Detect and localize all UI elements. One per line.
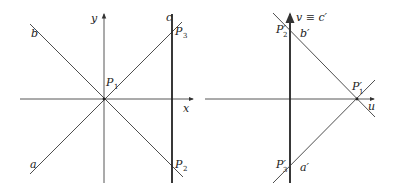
- svg-text:3: 3: [283, 166, 287, 174]
- x-axis-label: x: [183, 102, 190, 115]
- line-b: [30, 24, 183, 177]
- line-a-label: a: [30, 158, 37, 171]
- line-a-prime-label: a′: [300, 161, 310, 174]
- svg-text:2: 2: [183, 165, 187, 173]
- point-p3-label: P 3: [174, 25, 187, 40]
- point-p2-prime-label: P′ 2: [275, 23, 287, 39]
- svg-text:P: P: [174, 25, 183, 38]
- point-p1-dot: [103, 98, 106, 101]
- line-b-label: b: [31, 27, 38, 40]
- svg-text:1: 1: [359, 88, 363, 96]
- point-p1-label: P 1: [105, 76, 118, 91]
- line-a: [30, 22, 182, 174]
- svg-text:2: 2: [283, 31, 287, 39]
- svg-text:P: P: [105, 76, 114, 89]
- line-b-prime-label: b′: [300, 27, 310, 40]
- svg-text:3: 3: [183, 32, 187, 40]
- u-axis-label: u: [368, 100, 375, 113]
- svg-text:P: P: [174, 158, 183, 171]
- point-p2-label: P 2: [174, 158, 187, 173]
- left-diagram: x y b a c P 1 P 3 P 2: [20, 11, 193, 183]
- line-b-prime: [273, 13, 375, 117]
- y-axis-label: y: [90, 12, 98, 25]
- line-c-label: c: [166, 11, 172, 24]
- right-diagram: u v ≡ c′ b′ a′ P′ 2 P′ 1 P′ 3: [205, 11, 375, 183]
- diagram-canvas: x y b a c P 1 P 3 P 2 u v ≡ c′ b′ a′ P′ …: [0, 0, 395, 194]
- svg-text:1: 1: [114, 83, 118, 91]
- point-p1-prime-label: P′ 1: [351, 80, 363, 96]
- point-p3-prime-label: P′ 3: [275, 158, 287, 174]
- v-axis-label: v ≡ c′: [296, 11, 328, 24]
- point-p1-prime-dot: [356, 98, 359, 101]
